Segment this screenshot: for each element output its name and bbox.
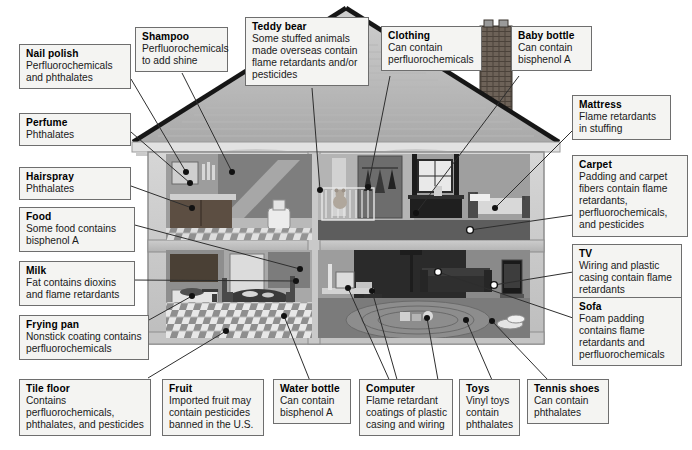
callout-title: Carpet [579, 159, 682, 171]
callout-title: Toys [466, 383, 514, 395]
callout-body: Can contain perfluorochemicals [388, 42, 476, 66]
callout-body: Imported fruit may contain pesticides ba… [169, 395, 258, 431]
callout-title: Fruit [169, 383, 258, 395]
callout-title: Baby bottle [518, 30, 586, 42]
room-nursery [318, 152, 530, 240]
callout-teddy-bear[interactable]: Teddy bear Some stuffed animals made ove… [245, 17, 369, 86]
callout-body: Foam padding contains flame retardants a… [579, 313, 676, 361]
callout-body: Some food contains bisphenol A [26, 223, 129, 247]
callout-body: Flame retardants in stuffing [579, 111, 665, 135]
callout-body: Phthalates [26, 183, 125, 195]
callout-title: Sofa [579, 301, 676, 313]
callout-title: Computer [366, 383, 447, 395]
callout-title: Teddy bear [252, 21, 363, 33]
callout-shampoo[interactable]: Shampoo Perfluorochemicals to add shine [135, 27, 228, 72]
callout-body: Nonstick coating contains perfluorochemi… [26, 331, 143, 355]
callout-body: Padding and carpet fibers contain flame … [579, 171, 682, 231]
callout-title: TV [579, 248, 676, 260]
callout-computer[interactable]: Computer Flame retardant coatings of pla… [359, 379, 453, 436]
room-kitchen [166, 250, 312, 338]
callout-title: Mattress [579, 99, 665, 111]
callout-tv[interactable]: TV Wiring and plastic casing contain fla… [572, 244, 682, 301]
callout-clothing[interactable]: Clothing Can contain perfluorochemicals [381, 26, 482, 71]
callout-body: Some stuffed animals made overseas conta… [252, 33, 363, 81]
callout-body: Can contain bisphenol A [518, 42, 586, 66]
callout-tile-floor[interactable]: Tile floor Contains perfluorochemicals, … [19, 379, 151, 436]
callout-carpet[interactable]: Carpet Padding and carpet fibers contain… [572, 155, 688, 237]
callout-title: Food [26, 211, 129, 223]
callout-tennis-shoes[interactable]: Tennis shoes Can contain phthalates [527, 379, 609, 424]
callout-body: Contains perfluorochemicals, phthalates,… [26, 395, 145, 431]
callout-title: Frying pan [26, 319, 143, 331]
callout-body: Flame retardant coatings of plastic casi… [366, 395, 447, 431]
callout-title: Nail polish [26, 48, 125, 60]
callout-water-bottle[interactable]: Water bottle Can contain bisphenol A [273, 379, 351, 424]
callout-body: Can contain phthalates [534, 395, 603, 419]
callout-perfume[interactable]: Perfume Phthalates [19, 113, 131, 146]
callout-body: Perfluorochemicals and phthalates [26, 60, 125, 84]
callout-body: Vinyl toys contain phthalates [466, 395, 514, 431]
callout-body: Perfluorochemicals to add shine [142, 43, 222, 67]
callout-mattress[interactable]: Mattress Flame retardants in stuffing [572, 95, 671, 140]
callout-title: Tennis shoes [534, 383, 603, 395]
callout-title: Hairspray [26, 171, 125, 183]
callout-baby-bottle[interactable]: Baby bottle Can contain bisphenol A [511, 26, 592, 71]
infographic-diagram: Nail polish Perfluorochemicals and phtha… [0, 0, 692, 450]
callout-food[interactable]: Food Some food contains bisphenol A [19, 207, 135, 252]
callout-hairspray[interactable]: Hairspray Phthalates [19, 167, 131, 200]
callout-toys[interactable]: Toys Vinyl toys contain phthalates [459, 379, 520, 436]
room-bathroom [166, 154, 312, 240]
room-living-room [318, 250, 530, 339]
callout-milk[interactable]: Milk Fat contains dioxins and flame reta… [19, 261, 135, 306]
callout-title: Tile floor [26, 383, 145, 395]
callout-nail-polish[interactable]: Nail polish Perfluorochemicals and phtha… [19, 44, 131, 89]
callout-title: Perfume [26, 117, 125, 129]
callout-title: Clothing [388, 30, 476, 42]
callout-title: Water bottle [280, 383, 345, 395]
callout-title: Milk [26, 265, 129, 277]
callout-frying-pan[interactable]: Frying pan Nonstick coating contains per… [19, 315, 149, 360]
callout-body: Fat contains dioxins and flame retardant… [26, 277, 129, 301]
callout-sofa[interactable]: Sofa Foam padding contains flame retarda… [572, 297, 682, 366]
callout-title: Shampoo [142, 31, 222, 43]
callout-body: Phthalates [26, 129, 125, 141]
callout-body: Can contain bisphenol A [280, 395, 345, 419]
callout-fruit[interactable]: Fruit Imported fruit may contain pestici… [162, 379, 264, 436]
callout-body: Wiring and plastic casing contain flame … [579, 260, 676, 296]
